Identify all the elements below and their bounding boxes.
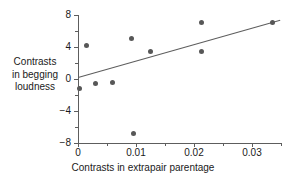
y-axis-minor-tick [75,95,78,96]
data-point [270,20,275,25]
y-axis-title: Contrasts in begging loudness [2,56,68,94]
y-axis-tick-label: 8 [65,10,71,20]
data-point [199,20,204,25]
data-point [199,49,204,54]
y-axis-tick [74,15,78,16]
data-point [93,81,98,86]
y-axis-title-line-1: Contrasts [2,56,68,69]
y-axis-tick [74,143,78,144]
y-axis-tick-label: −4 [60,106,71,116]
y-axis-minor-tick [75,127,78,128]
regression-line [78,20,280,78]
scatter-chart-figure: Contrasts in begging loudness Contrasts … [0,0,286,181]
x-axis-tick-label: 0.03 [242,148,261,158]
data-point [148,49,153,54]
x-axis-tick-label: 0 [75,148,81,158]
data-point [110,80,115,85]
x-axis-minor-tick [223,143,224,146]
x-axis-tick-label: 0.01 [126,148,145,158]
y-axis-tick [74,111,78,112]
x-axis-minor-tick [165,143,166,146]
x-axis-minor-tick [281,143,282,146]
x-axis-minor-tick [107,143,108,146]
x-axis-title: Contrasts in extrapair parentage [0,162,286,173]
data-point [84,43,89,48]
y-axis-tick-label: 0 [65,74,71,84]
y-axis-tick [74,47,78,48]
y-axis-line [78,15,79,144]
data-point [131,131,136,136]
y-axis-tick-label: −8 [60,138,71,148]
y-axis-title-line-3: loudness [2,81,68,94]
y-axis-minor-tick [75,63,78,64]
data-point [129,36,134,41]
y-axis-tick-label: 4 [65,42,71,52]
y-axis-minor-tick [75,31,78,32]
y-axis-title-line-2: in begging [2,69,68,82]
y-axis-tick [74,79,78,80]
x-axis-tick-label: 0.02 [184,148,203,158]
